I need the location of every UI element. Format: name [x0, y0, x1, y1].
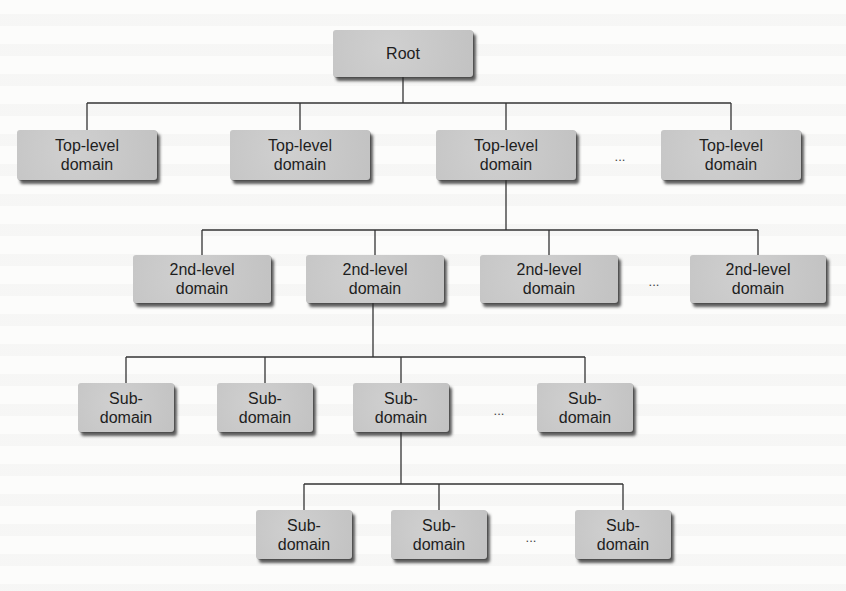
dns-hierarchy-diagram: Root Top-level domainTop-level domainTop… — [0, 0, 846, 591]
second-level-domain-node: 2nd-level domain — [480, 255, 618, 303]
second-level-domain-node: 2nd-level domain — [690, 255, 826, 303]
subdomain-2-domain-node: Sub- domain — [391, 510, 487, 559]
subdomain-2-domain-node: Sub- domain — [256, 510, 352, 559]
subdomain-1-domain-node: Sub- domain — [353, 383, 449, 432]
more-siblings-ellipsis: ... — [526, 530, 537, 545]
subdomain-1-domain-node: Sub- domain — [78, 383, 174, 432]
top-level-domain-node: Top-level domain — [230, 130, 370, 180]
more-siblings-ellipsis: ... — [494, 403, 505, 418]
top-level-domain-node: Top-level domain — [436, 130, 576, 180]
more-siblings-ellipsis: ... — [649, 274, 660, 289]
top-level-domain-node: Top-level domain — [661, 130, 801, 180]
second-level-domain-node: 2nd-level domain — [133, 255, 271, 303]
subdomain-2-domain-node: Sub- domain — [575, 510, 671, 559]
root-node: Root — [333, 30, 473, 77]
more-siblings-ellipsis: ... — [615, 149, 626, 164]
second-level-domain-node: 2nd-level domain — [306, 255, 444, 303]
top-level-domain-node: Top-level domain — [17, 130, 157, 180]
subdomain-1-domain-node: Sub- domain — [217, 383, 313, 432]
subdomain-1-domain-node: Sub- domain — [537, 383, 633, 432]
